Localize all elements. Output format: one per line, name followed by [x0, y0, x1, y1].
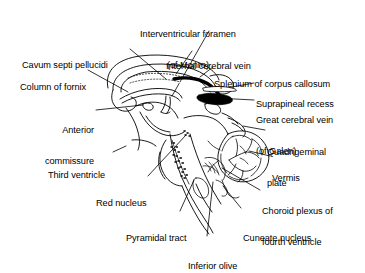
- label-inferior-olive: Inferior olive: [188, 240, 237, 273]
- label-text-line1: Cuneate nucleus: [243, 233, 311, 243]
- label-text-line1: Great cerebral vein: [256, 115, 333, 125]
- choroid-plexus-texture: [205, 162, 219, 175]
- label-text-line1: Anterior: [0, 125, 94, 135]
- label-text-line1: Vermis: [272, 173, 300, 183]
- midbrain-upper: [184, 116, 228, 134]
- hypothalamus-outline: [126, 108, 140, 150]
- red-nucleus-shape: [184, 131, 190, 136]
- label-text-line1: Red nucleus: [96, 198, 147, 208]
- anterior-commissure-shape: [143, 103, 153, 110]
- vermis-shape: [240, 146, 248, 164]
- quadrigeminal-plate-shape: [228, 118, 245, 137]
- label-text-line1: Column of fornix: [20, 82, 86, 92]
- label-text-line1: Interventricular foramen: [118, 29, 258, 39]
- label-text-line1: Inferior olive: [188, 261, 237, 271]
- fornix-lower: [122, 94, 180, 103]
- interventricular-foramen-shape: [161, 112, 170, 114]
- thalamus-outline: [140, 112, 184, 136]
- label-cuneate-nucleus: Cuneate nucleus: [243, 212, 311, 264]
- label-pyramidal-tract: Pyramidal tract: [126, 212, 187, 264]
- cerebellum-arbor-vitae: [228, 139, 259, 182]
- label-text-line1: Pyramidal tract: [126, 233, 187, 243]
- fourth-ventricle-outline: [205, 157, 225, 180]
- cuneate-nucleus-shape: [216, 180, 227, 196]
